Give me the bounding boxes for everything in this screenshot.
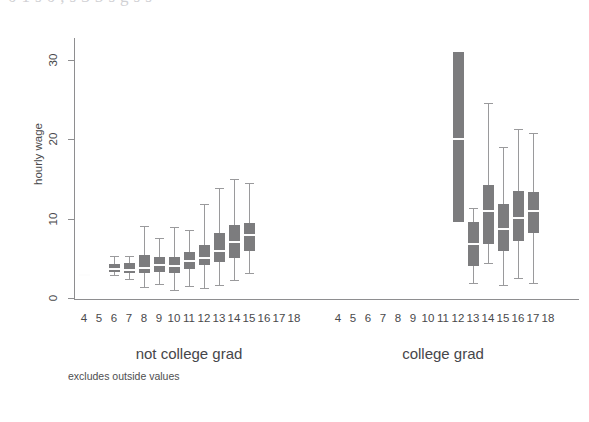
upper-whisker-cap bbox=[125, 256, 134, 257]
lower-whisker bbox=[518, 241, 519, 278]
lower-whisker-cap bbox=[170, 290, 179, 291]
median-line bbox=[483, 210, 494, 212]
upper-whisker-cap bbox=[185, 230, 194, 231]
lower-whisker bbox=[488, 244, 489, 263]
y-tick-label: 0 bbox=[45, 287, 61, 309]
panel-title-college-grad: college grad bbox=[343, 345, 543, 362]
upper-whisker-cap bbox=[140, 226, 149, 227]
lower-whisker bbox=[159, 272, 160, 284]
upper-whisker-cap bbox=[245, 183, 254, 184]
x-axis-line bbox=[74, 299, 579, 300]
upper-whisker-cap bbox=[499, 147, 508, 148]
box-iqr bbox=[244, 223, 255, 251]
y-tick-label: 20 bbox=[45, 128, 61, 150]
box-iqr bbox=[139, 255, 150, 273]
upper-whisker bbox=[159, 238, 160, 257]
y-tick-mark bbox=[68, 139, 74, 140]
upper-whisker bbox=[204, 204, 205, 245]
y-tick-label: 10 bbox=[45, 208, 61, 230]
upper-whisker bbox=[219, 188, 220, 233]
y-tick-label: 30 bbox=[45, 49, 61, 71]
upper-whisker-cap bbox=[170, 227, 179, 228]
upper-whisker bbox=[518, 129, 519, 192]
median-line bbox=[139, 267, 150, 269]
box-iqr bbox=[124, 263, 135, 273]
median-line bbox=[124, 269, 135, 271]
median-line bbox=[169, 265, 180, 267]
upper-whisker-cap bbox=[529, 133, 538, 134]
median-line bbox=[199, 257, 210, 259]
lower-whisker-cap bbox=[200, 288, 209, 289]
lower-whisker bbox=[204, 265, 205, 288]
box-iqr bbox=[483, 185, 494, 244]
lower-whisker bbox=[473, 266, 474, 283]
figure-footnote: excludes outside values bbox=[68, 370, 180, 382]
upper-whisker-cap bbox=[469, 208, 478, 209]
median-line bbox=[513, 217, 524, 219]
median-line bbox=[229, 241, 240, 243]
lower-whisker-cap bbox=[125, 279, 134, 280]
median-line bbox=[154, 264, 165, 266]
x-tick-label: 18 bbox=[536, 312, 560, 324]
median-line bbox=[498, 228, 509, 230]
lower-whisker bbox=[533, 233, 534, 283]
boxplot-figure: 0102030 hourly wage 45678910111213141516… bbox=[0, 0, 589, 422]
y-tick-mark bbox=[68, 60, 74, 61]
upper-whisker bbox=[114, 256, 115, 264]
lower-whisker-cap bbox=[140, 287, 149, 288]
lower-whisker-cap bbox=[155, 284, 164, 285]
box-iqr bbox=[528, 192, 539, 233]
upper-whisker bbox=[488, 103, 489, 185]
lower-whisker bbox=[249, 251, 250, 272]
median-line bbox=[184, 260, 195, 262]
median-line bbox=[244, 234, 255, 236]
median-line bbox=[528, 210, 539, 212]
upper-whisker bbox=[189, 230, 190, 251]
box-iqr bbox=[199, 245, 210, 266]
upper-whisker-cap bbox=[215, 188, 224, 189]
upper-whisker-cap bbox=[200, 204, 209, 205]
box-iqr bbox=[214, 233, 225, 262]
lower-whisker bbox=[219, 262, 220, 285]
median-line bbox=[468, 243, 479, 245]
upper-whisker bbox=[503, 147, 504, 204]
median-line bbox=[109, 268, 120, 270]
lower-whisker bbox=[174, 273, 175, 290]
lower-whisker-cap bbox=[499, 285, 508, 286]
lower-whisker bbox=[234, 258, 235, 279]
y-tick-mark bbox=[68, 298, 74, 299]
lower-whisker-cap bbox=[245, 273, 254, 274]
upper-whisker-cap bbox=[514, 129, 523, 130]
lower-whisker-cap bbox=[469, 283, 478, 284]
lower-whisker-cap bbox=[514, 278, 523, 279]
x-tick-label: 18 bbox=[282, 312, 306, 324]
y-axis-title: hourly wage bbox=[32, 94, 44, 214]
lower-whisker-cap bbox=[230, 280, 239, 281]
lower-whisker bbox=[144, 273, 145, 287]
lower-whisker bbox=[189, 269, 190, 286]
y-axis-line bbox=[74, 38, 75, 300]
y-tick-mark bbox=[68, 219, 74, 220]
box-iqr bbox=[453, 52, 464, 223]
upper-whisker bbox=[174, 227, 175, 256]
median-line bbox=[214, 250, 225, 252]
median-line bbox=[79, 274, 90, 276]
lower-whisker-cap bbox=[185, 286, 194, 287]
upper-whisker-cap bbox=[110, 256, 119, 257]
upper-whisker bbox=[473, 208, 474, 222]
lower-whisker-cap bbox=[529, 283, 538, 284]
lower-whisker bbox=[503, 251, 504, 285]
upper-whisker bbox=[533, 133, 534, 193]
lower-whisker-cap bbox=[215, 285, 224, 286]
median-line bbox=[453, 138, 464, 140]
upper-whisker-cap bbox=[155, 238, 164, 239]
upper-whisker bbox=[249, 183, 250, 224]
upper-whisker bbox=[144, 226, 145, 255]
upper-whisker-cap bbox=[484, 103, 493, 104]
lower-whisker-cap bbox=[110, 275, 119, 276]
upper-whisker bbox=[129, 256, 130, 263]
lower-whisker-cap bbox=[484, 263, 493, 264]
upper-whisker-cap bbox=[230, 179, 239, 180]
upper-whisker bbox=[234, 179, 235, 225]
panel-title-not-college-grad: not college grad bbox=[89, 345, 289, 362]
